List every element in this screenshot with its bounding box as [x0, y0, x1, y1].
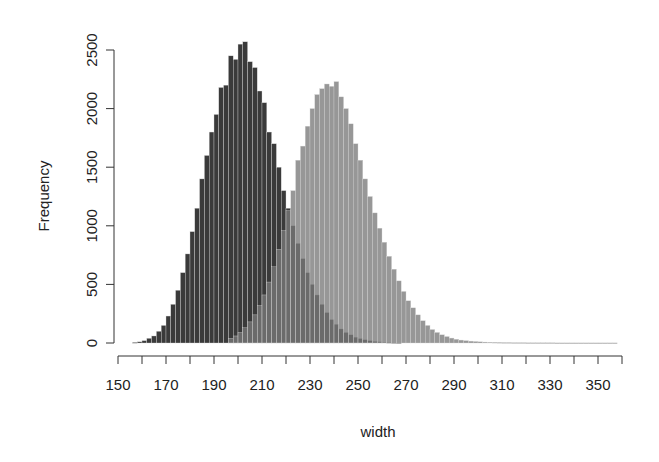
x-tick-label: 150 [105, 376, 130, 393]
histogram-bar [521, 343, 526, 344]
histogram-bar [324, 84, 329, 343]
histogram-bar [420, 321, 425, 343]
x-tick-label: 350 [585, 376, 610, 393]
x-tick-label: 170 [153, 376, 178, 393]
histogram-bar [190, 232, 195, 343]
histogram-bar [195, 208, 200, 343]
histogram-bar [137, 342, 142, 343]
histogram-bar [339, 97, 344, 343]
histogram-bar [233, 336, 238, 343]
histogram-bar [248, 322, 253, 343]
histogram-chart: 05001000150020002500 1501701902102302502… [0, 0, 659, 462]
histogram-bar [411, 308, 416, 343]
histogram-bar [387, 256, 392, 343]
histogram-bar [512, 343, 517, 344]
histogram-bar [228, 338, 233, 343]
histogram-bar [344, 109, 349, 343]
histogram-bar [564, 343, 569, 344]
histogram-bar [257, 306, 262, 344]
histogram-bar [272, 267, 277, 343]
histogram-bar [257, 91, 262, 343]
histogram-bar [171, 304, 176, 343]
histogram-bar [473, 341, 478, 343]
histogram-bar [286, 211, 291, 343]
histogram-bar [214, 114, 219, 343]
histogram-bar [276, 249, 281, 343]
histogram-bar [526, 343, 531, 344]
histogram-bar [147, 338, 152, 343]
histogram-bar [555, 343, 560, 344]
histogram-series-2 [228, 82, 617, 344]
histogram-bar [382, 242, 387, 343]
histogram-bar [310, 109, 315, 343]
y-tick-label: 500 [83, 272, 100, 297]
histogram-bar [243, 328, 248, 343]
histogram-bar [488, 342, 493, 343]
histogram-bar [320, 89, 325, 343]
histogram-bar [401, 291, 406, 343]
histogram-bar [142, 341, 147, 343]
histogram-bar [574, 343, 579, 344]
histogram-bar [291, 191, 296, 343]
x-tick-label: 230 [297, 376, 322, 393]
histogram-bar [329, 86, 334, 343]
histogram-bar [608, 343, 613, 344]
histogram-bar [435, 332, 440, 343]
histogram-bar [156, 331, 161, 343]
histogram-bar [243, 42, 248, 343]
histogram-bar [132, 342, 137, 343]
histogram-bar [516, 343, 521, 344]
x-tick-label: 310 [489, 376, 514, 393]
histogram-bar [219, 88, 224, 344]
x-tick-label: 290 [441, 376, 466, 393]
y-tick-label: 1500 [83, 151, 100, 184]
x-tick-label: 250 [345, 376, 370, 393]
histogram-bar [315, 95, 320, 343]
x-tick-label: 270 [393, 376, 418, 393]
y-tick-label: 2500 [83, 33, 100, 66]
histogram-bar [152, 336, 157, 343]
histogram-bar [588, 343, 593, 344]
histogram-bar [483, 342, 488, 343]
y-tick-label: 2000 [83, 92, 100, 125]
histogram-bar [468, 341, 473, 343]
histogram-bar [281, 230, 286, 343]
histogram-bar [248, 62, 253, 343]
y-axis-title: Frequency [35, 160, 52, 231]
histogram-bar [267, 282, 272, 343]
histogram-bar [180, 273, 185, 343]
histogram-bar [176, 290, 181, 343]
histogram-bar [228, 56, 233, 343]
histogram-bar [440, 335, 445, 343]
histogram-bar [238, 332, 243, 343]
histogram-bar [204, 155, 209, 343]
histogram-bar [262, 295, 267, 343]
histogram-bars [132, 42, 617, 344]
histogram-bar [430, 330, 435, 343]
histogram-bar [492, 342, 497, 343]
histogram-bar [406, 301, 411, 343]
histogram-bar [238, 44, 243, 343]
histogram-bar [497, 342, 502, 343]
histogram-bar [358, 160, 363, 343]
y-axis: 05001000150020002500 [83, 33, 114, 347]
histogram-bar [416, 315, 421, 343]
histogram-bar [296, 160, 301, 343]
histogram-bar [612, 343, 617, 344]
histogram-bar [224, 85, 229, 343]
histogram-bar [536, 343, 541, 344]
histogram-bar [372, 213, 377, 343]
x-tick-label: 330 [537, 376, 562, 393]
x-tick-label: 210 [249, 376, 274, 393]
histogram-bar [368, 197, 373, 344]
histogram-bar [233, 59, 238, 343]
histogram-bar [502, 343, 507, 344]
x-axis-title: width [359, 423, 395, 440]
histogram-bar [459, 340, 464, 343]
histogram-bar [598, 343, 603, 344]
histogram-bar [252, 315, 257, 343]
histogram-bar [478, 342, 483, 343]
histogram-bar [507, 343, 512, 344]
histogram-bar [579, 343, 584, 344]
histogram-bar [560, 343, 565, 344]
